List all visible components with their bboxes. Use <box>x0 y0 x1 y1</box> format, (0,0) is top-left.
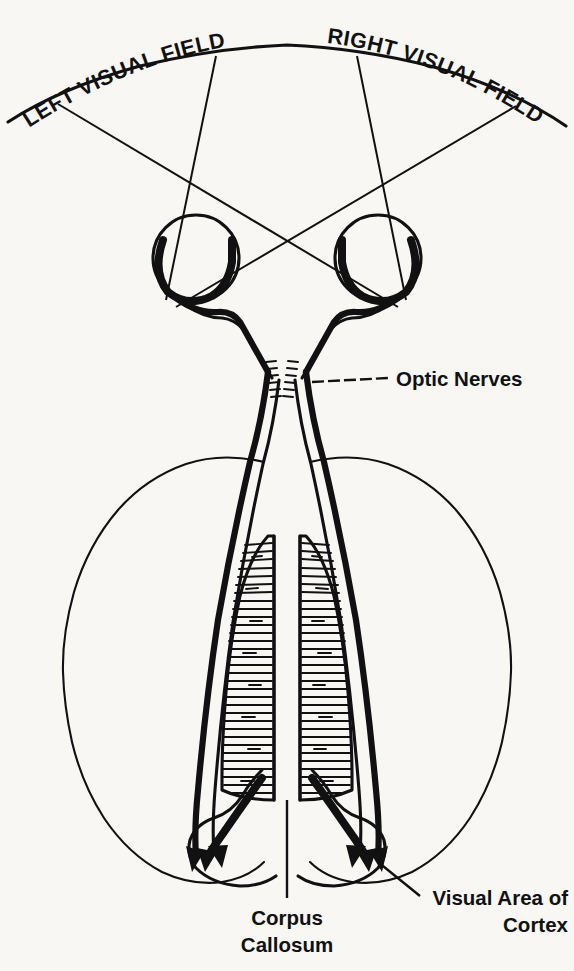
corpus-callosum-label-line2: Callosum <box>241 933 333 956</box>
right-visual-field-text: RIGHT VISUAL FIELD <box>326 24 548 129</box>
right-retina <box>342 240 415 301</box>
corpus-callosum-dashes-right <box>312 556 333 781</box>
visual-cortex-leader <box>378 862 420 896</box>
left-retina <box>159 240 232 301</box>
corpus-callosum-hatching-left <box>223 543 272 793</box>
corpus-callosum-label-line1: Corpus <box>251 906 323 929</box>
leader-lines <box>287 378 420 898</box>
visual-cortex-label-line1: Visual Area of <box>432 886 568 909</box>
svg-text:LEFT VISUAL FIELD: LEFT VISUAL FIELD <box>19 28 227 132</box>
left-eye <box>153 215 272 378</box>
left-occipital-lobe <box>189 770 276 886</box>
right-occipital-outline <box>298 770 385 886</box>
corpus-callosum-hatching-right <box>302 543 351 793</box>
corpus-callosum-dashes-left <box>241 556 262 781</box>
optic-nerves-leader <box>312 378 388 382</box>
left-visual-field-label: LEFT VISUAL FIELD <box>19 28 227 132</box>
optic-nerves-label: Optic Nerves <box>396 367 522 390</box>
right-visual-field-label: RIGHT VISUAL FIELD <box>326 24 548 129</box>
visual-pathways-diagram: LEFT VISUAL FIELD RIGHT VISUAL FIELD <box>0 0 574 971</box>
right-occipital-lobe <box>298 770 385 886</box>
left-occipital-outline <box>189 770 276 886</box>
left-visual-field-text: LEFT VISUAL FIELD <box>19 28 227 132</box>
diagram-canvas: LEFT VISUAL FIELD RIGHT VISUAL FIELD <box>0 0 574 971</box>
sight-line-leftmid-to-left-eye <box>166 56 216 300</box>
right-eye <box>302 215 421 378</box>
optic-chiasm <box>266 361 298 397</box>
svg-text:RIGHT VISUAL FIELD: RIGHT VISUAL FIELD <box>326 24 548 129</box>
sight-lines <box>58 56 516 307</box>
visual-cortex-label-line2: Cortex <box>503 913 569 936</box>
sight-line-rightmid-to-right-eye <box>357 56 406 300</box>
